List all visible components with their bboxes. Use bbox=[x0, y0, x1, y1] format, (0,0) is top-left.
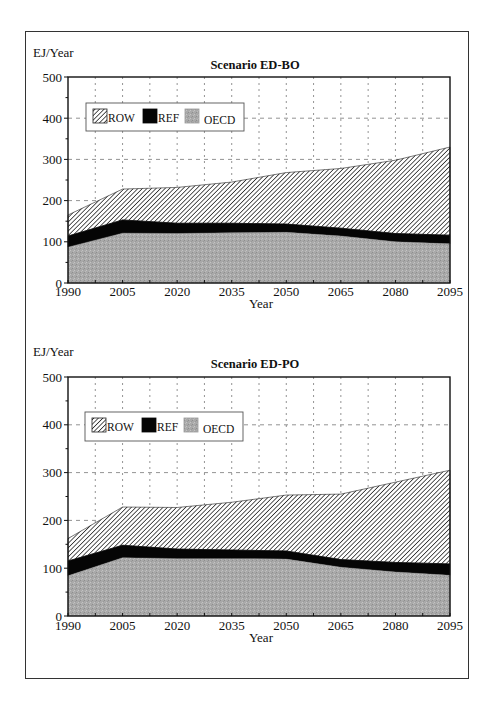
y-tick-label: 100 bbox=[43, 561, 63, 576]
x-tick-label: 2005 bbox=[110, 618, 136, 633]
ref-swatch-icon bbox=[143, 109, 157, 123]
x-tick-label: 2020 bbox=[164, 618, 190, 633]
y-tick-label: 400 bbox=[43, 417, 63, 432]
y-tick-label: 300 bbox=[43, 152, 63, 167]
y-axis: 0100200300400500 bbox=[43, 370, 69, 624]
legend: ROWREFOECD bbox=[85, 412, 243, 441]
x-tick-label: 2050 bbox=[273, 618, 299, 633]
x-tick-label: 2005 bbox=[110, 284, 136, 299]
x-tick-label: 2035 bbox=[219, 618, 245, 633]
x-tick-label: 2095 bbox=[437, 284, 463, 299]
y-axis: 0100200300400500 bbox=[43, 70, 69, 291]
x-tick-label: 1990 bbox=[55, 618, 81, 633]
y-tick-label: 200 bbox=[43, 513, 63, 528]
oecd-swatch-icon bbox=[185, 109, 199, 123]
x-tick-label: 1990 bbox=[55, 284, 81, 299]
legend-label-ref: REF bbox=[157, 421, 178, 433]
chart-scenario-ed-bo: 0100200300400500199020052020203520502065… bbox=[0, 30, 494, 360]
x-tick-label: 2080 bbox=[382, 618, 408, 633]
chart-title: Scenario ED-BO bbox=[210, 58, 300, 72]
oecd-swatch-icon bbox=[184, 418, 198, 432]
legend-label-oecd: OECD bbox=[203, 423, 234, 435]
x-tick-label: 2020 bbox=[164, 284, 190, 299]
y-tick-label: 200 bbox=[43, 193, 63, 208]
y-tick-label: 500 bbox=[43, 70, 63, 85]
y-tick-label: 300 bbox=[43, 465, 63, 480]
legend-label-row: ROW bbox=[107, 421, 134, 433]
x-axis-title: Year bbox=[249, 630, 274, 645]
x-tick-label: 2050 bbox=[273, 284, 299, 299]
x-tick-label: 2035 bbox=[219, 284, 245, 299]
x-axis-title: Year bbox=[249, 296, 274, 311]
chart-title: Scenario ED-PO bbox=[211, 357, 300, 371]
y-tick-label: 100 bbox=[43, 234, 63, 249]
row-swatch-icon bbox=[92, 418, 106, 432]
y-tick-label: 500 bbox=[43, 370, 63, 385]
legend-label-row: ROW bbox=[108, 112, 135, 124]
x-tick-label: 2065 bbox=[328, 618, 354, 633]
y-tick-label: 400 bbox=[43, 111, 63, 126]
x-tick-label: 2065 bbox=[328, 284, 354, 299]
legend-label-oecd: OECD bbox=[204, 114, 235, 126]
legend: ROWREFOECD bbox=[86, 103, 244, 131]
x-tick-label: 2080 bbox=[382, 284, 408, 299]
y-axis-title: EJ/Year bbox=[33, 344, 74, 359]
legend-label-ref: REF bbox=[158, 112, 179, 124]
row-swatch-icon bbox=[93, 109, 107, 123]
ref-swatch-icon bbox=[142, 418, 156, 432]
y-axis-title: EJ/Year bbox=[33, 45, 74, 60]
chart-scenario-ed-po: 0100200300400500199020052020203520502065… bbox=[0, 330, 494, 670]
x-tick-label: 2095 bbox=[437, 618, 463, 633]
